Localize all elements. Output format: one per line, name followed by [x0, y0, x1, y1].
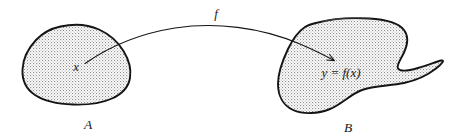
set-b-group: y = f(x) B: [278, 18, 443, 135]
set-a-group: x A: [22, 25, 130, 132]
set-a-point-label: x: [72, 60, 79, 74]
function-arrow-label: f: [214, 6, 220, 21]
function-diagram-figure: x A y = f(x) B f: [0, 0, 453, 140]
set-b-point-label: y = f(x): [319, 65, 360, 80]
set-a-label: A: [83, 117, 93, 132]
set-b-label: B: [344, 120, 352, 135]
function-diagram-canvas: x A y = f(x) B f: [0, 0, 453, 140]
